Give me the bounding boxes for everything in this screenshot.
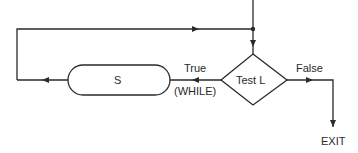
junction-dot (251, 27, 255, 31)
arrow-left-icon (192, 77, 199, 83)
process-label: S (114, 75, 121, 86)
false-connector (287, 80, 333, 127)
exit-label: EXIT (321, 136, 345, 147)
true-label: True (184, 63, 206, 74)
while-label: (WHILE) (174, 86, 216, 97)
decision-label: Test L (236, 75, 265, 86)
false-label: False (296, 63, 323, 74)
loop-back-connector (17, 29, 253, 80)
flowchart-canvas (0, 0, 358, 153)
arrow-down-icon (330, 120, 336, 127)
arrow-down-icon (250, 40, 256, 47)
arrow-left-icon (42, 77, 49, 83)
arrow-right-icon (192, 26, 199, 32)
arrow-right-icon (306, 77, 313, 83)
